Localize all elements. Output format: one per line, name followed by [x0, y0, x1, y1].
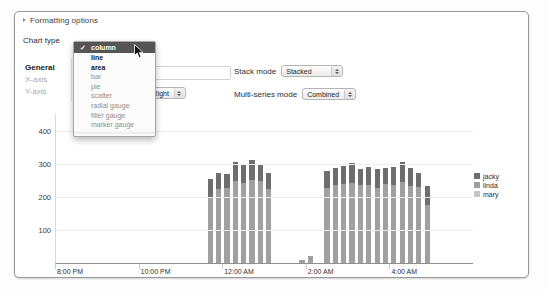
bar-segment-jacky	[266, 173, 271, 189]
bar-segment-linda	[258, 181, 263, 263]
legend-entry[interactable]: linda	[474, 181, 522, 189]
bar-segment-jacky	[224, 174, 229, 188]
formatting-options-header[interactable]: Formatting options	[15, 12, 528, 28]
subtab-y-axis[interactable]: Y-axis	[25, 86, 69, 98]
multi-series-mode-row: Multi-series mode Combined	[234, 88, 356, 100]
x-tick-date: Wed Mar 21	[57, 277, 95, 279]
y-axis-tick-label: 300	[38, 159, 51, 168]
bar-segment-jacky	[324, 171, 329, 188]
bar[interactable]	[266, 173, 271, 263]
menu-item-area[interactable]: area	[74, 63, 155, 73]
app-screenshot: Formatting options Chart type General X-…	[0, 0, 547, 290]
bar-segment-jacky	[400, 162, 405, 182]
bar-segment-jacky	[358, 169, 363, 185]
chevron-updown-icon	[331, 66, 341, 76]
bar[interactable]	[400, 162, 405, 263]
menu-item-marker-gauge[interactable]: marker gauge	[74, 120, 155, 130]
bar[interactable]	[391, 167, 396, 263]
bar-segment-linda	[425, 205, 430, 263]
bar[interactable]	[358, 169, 363, 263]
bar[interactable]	[233, 162, 238, 263]
bar[interactable]	[258, 165, 263, 263]
bar[interactable]	[216, 173, 221, 263]
bar-segment-linda	[308, 256, 313, 263]
multi-series-mode-select[interactable]: Combined	[302, 88, 356, 100]
y-axis-tick-label: 200	[38, 192, 51, 201]
menu-item-bar[interactable]: bar	[74, 72, 155, 82]
multi-series-mode-label: Multi-series mode	[234, 90, 297, 99]
bar-segment-jacky	[391, 167, 396, 185]
x-axis-tick-mark	[389, 264, 390, 269]
bar[interactable]	[416, 173, 421, 263]
multi-series-mode-value: Combined	[307, 91, 339, 98]
bar-segment-linda	[266, 189, 271, 263]
gridline	[56, 197, 473, 198]
legend-label: jacky	[483, 173, 499, 180]
bar-segment-linda	[400, 182, 405, 263]
bar[interactable]	[241, 164, 246, 263]
triangle-right-icon[interactable]	[23, 18, 26, 22]
menu-item-label: bar	[91, 73, 101, 80]
x-axis-tick-label: 10:00 PM	[141, 268, 171, 277]
bar-segment-jacky	[366, 167, 371, 184]
check-icon: ✓	[80, 42, 86, 53]
stack-mode-select[interactable]: Stacked	[281, 65, 343, 77]
bar-segment-jacky	[241, 164, 246, 182]
menu-item-label: marker gauge	[91, 121, 134, 128]
chevron-updown-icon	[344, 89, 354, 99]
subtab-general[interactable]: General	[25, 62, 69, 74]
legend-swatch	[474, 182, 480, 188]
x-axis-tick-mark	[222, 264, 223, 269]
formatting-options-label: Formatting options	[30, 16, 98, 25]
x-tick-time: 2:00 AM	[308, 268, 334, 277]
x-tick-time: 4:00 AM	[391, 268, 417, 277]
y-axis-tick-label: 100	[38, 225, 51, 234]
x-axis-tick-mark	[306, 264, 307, 269]
bar-segment-linda	[224, 188, 229, 263]
bar[interactable]	[324, 171, 329, 263]
menu-item-scatter[interactable]: scatter	[74, 91, 155, 101]
settings-subtabs: General X-axis Y-axis	[25, 62, 69, 98]
bar-segment-jacky	[233, 162, 238, 181]
bar-segment-linda	[383, 184, 388, 263]
menu-item-radial-gauge[interactable]: radial gauge	[74, 101, 155, 111]
legend-label: linda	[483, 182, 498, 189]
bar-segment-jacky	[425, 186, 430, 205]
bar-segment-jacky	[383, 168, 388, 184]
bar[interactable]	[249, 160, 254, 263]
x-tick-date: Thu Mar 22	[224, 277, 260, 279]
stack-mode-row: Stack mode Stacked	[234, 65, 343, 77]
bar-segment-jacky	[349, 163, 354, 183]
bar[interactable]	[375, 169, 380, 263]
x-tick-time: 8:00 PM	[57, 268, 95, 277]
x-axis-tick-label: 2:00 AM	[308, 268, 334, 277]
legend-entry[interactable]: jacky	[474, 172, 522, 180]
menu-item-pie[interactable]: pie	[74, 82, 155, 92]
legend-entry[interactable]: mary	[474, 190, 522, 198]
bar[interactable]	[341, 166, 346, 263]
bar[interactable]	[224, 174, 229, 263]
bar[interactable]	[349, 163, 354, 263]
bar-segment-linda	[375, 188, 380, 263]
bar[interactable]	[333, 168, 338, 263]
subtab-x-axis[interactable]: X-axis	[25, 74, 69, 86]
bar[interactable]	[408, 168, 413, 263]
menu-item-label: radial gauge	[91, 102, 130, 109]
bar[interactable]	[308, 256, 313, 263]
bar-segment-linda	[241, 183, 246, 263]
bar[interactable]	[383, 168, 388, 263]
bar[interactable]	[208, 179, 213, 263]
x-tick-time: 10:00 PM	[141, 268, 171, 277]
menu-item-filler-gauge[interactable]: filler gauge	[74, 111, 155, 121]
menu-item-label: area	[91, 64, 105, 71]
bar-segment-jacky	[333, 168, 338, 185]
bar-segment-jacky	[258, 165, 263, 181]
bar[interactable]	[366, 167, 371, 263]
bar-segment-linda	[349, 183, 354, 263]
bar[interactable]	[299, 260, 304, 263]
bar-segment-jacky	[375, 169, 380, 187]
menu-item-label: scatter	[91, 92, 112, 99]
y-axis-tick-label: 400	[38, 126, 51, 135]
legend-swatch	[474, 173, 480, 179]
chart-type-label: Chart type	[23, 36, 60, 45]
